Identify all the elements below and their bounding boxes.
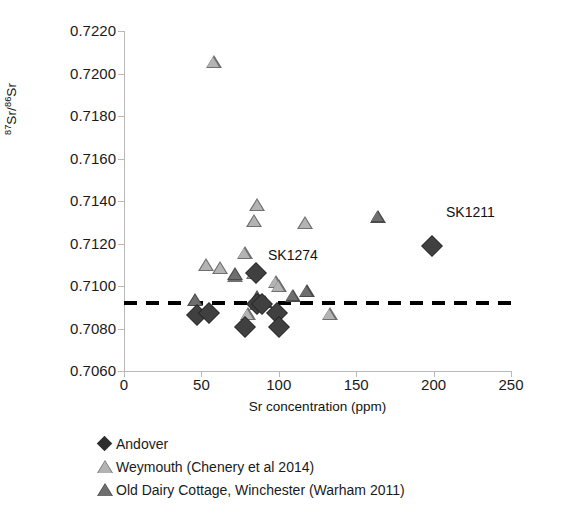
legend-item-3[interactable]: Old Dairy Cottage, Winchester (Warham 20… <box>96 478 516 501</box>
marker-fill <box>323 309 335 319</box>
marker-part <box>235 317 255 327</box>
marker-part <box>269 327 289 337</box>
marker-fill <box>200 260 212 270</box>
x-axis-title: Sr concentration (ppm) <box>124 399 511 414</box>
legend-item-1[interactable]: Andover <box>96 432 516 455</box>
point-annotation-sk1274: SK1274 <box>268 248 318 262</box>
x-tick-mark <box>511 371 512 377</box>
marker-part <box>246 263 266 273</box>
legend-item-2[interactable]: Weymouth (Chenery et al 2014) <box>96 455 516 478</box>
point-annotation-sk1211: SK1211 <box>446 205 495 219</box>
marker-part <box>246 273 266 283</box>
x-tick-label: 50 <box>171 377 231 392</box>
strontium-isotope-scatter-chart: 87Sr/86Sr 0.70600.70800.71000.71200.7140… <box>0 0 565 517</box>
marker-fill <box>272 281 284 291</box>
triangle-fill <box>98 461 112 473</box>
y-tick-mark <box>118 244 124 245</box>
x-tick-label: 150 <box>326 377 386 392</box>
triangle-fill <box>98 484 112 496</box>
x-tick-label: 100 <box>249 377 309 392</box>
x-tick-mark <box>279 371 280 377</box>
marker-fill <box>251 200 263 210</box>
marker-fill <box>207 57 219 67</box>
x-tick-mark <box>124 371 125 377</box>
marker-fill <box>286 290 298 300</box>
x-tick-label: 200 <box>404 377 464 392</box>
y-tick-mark <box>118 116 124 117</box>
x-tick-mark <box>201 371 202 377</box>
marker-fill <box>299 218 311 228</box>
marker-fill <box>238 248 250 258</box>
marker-fill <box>229 269 241 279</box>
marker-part <box>235 327 255 337</box>
diamond-shape <box>97 435 113 451</box>
x-tick-mark <box>434 371 435 377</box>
legend-label: Weymouth (Chenery et al 2014) <box>116 459 314 475</box>
chart-legend: AndoverWeymouth (Chenery et al 2014)Old … <box>96 432 516 501</box>
y-axis-line <box>124 31 125 372</box>
x-tick-label: 250 <box>481 377 541 392</box>
y-tick-mark <box>118 31 124 32</box>
y-tick-mark <box>118 159 124 160</box>
marker-fill <box>371 211 383 221</box>
y-tick-mark <box>118 286 124 287</box>
marker-part <box>422 236 442 246</box>
y-tick-mark <box>118 201 124 202</box>
x-tick-mark <box>356 371 357 377</box>
y-tick-mark <box>118 74 124 75</box>
legend-label: Old Dairy Cottage, Winchester (Warham 20… <box>116 482 405 498</box>
marker-part <box>422 246 442 256</box>
marker-part <box>199 313 219 323</box>
diamond-dark-icon <box>96 434 116 454</box>
marker-part <box>267 303 287 313</box>
reference-line <box>124 301 511 305</box>
marker-fill <box>214 263 226 273</box>
marker-part <box>199 303 219 313</box>
plot-area: SK1274SK1211 <box>124 31 511 371</box>
legend-label: Andover <box>116 436 168 452</box>
x-axis-line <box>124 371 512 372</box>
marker-fill <box>248 216 260 226</box>
triangle-light-icon <box>96 457 116 477</box>
y-tick-mark <box>118 329 124 330</box>
marker-fill <box>300 286 312 296</box>
triangle-dark-icon <box>96 480 116 500</box>
marker-part <box>269 317 289 327</box>
x-tick-label: 0 <box>94 377 154 392</box>
